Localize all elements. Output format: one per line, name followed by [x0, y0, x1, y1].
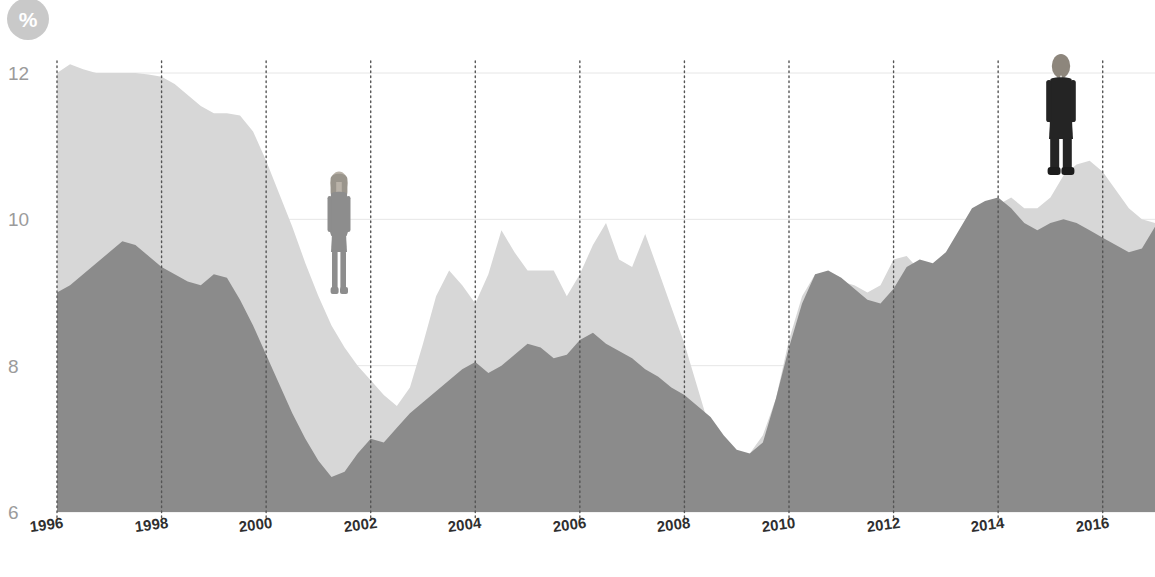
x-axis-tick-label: 2006	[552, 515, 587, 534]
x-axis-tick-label: 1996	[29, 515, 64, 534]
area-series-group	[57, 64, 1155, 512]
man-figure	[1042, 53, 1080, 177]
area-chart-svg	[0, 0, 1155, 577]
y-axis-tick-label: 12	[8, 64, 46, 83]
x-axis-tick-label: 2004	[447, 515, 482, 534]
x-axis-tick-label: 2008	[656, 515, 691, 534]
x-axis-tick-label: 2010	[761, 515, 796, 534]
x-axis-tick-label: 2014	[970, 515, 1005, 534]
plot-area	[0, 0, 1155, 577]
y-axis-tick-label: 10	[8, 210, 46, 229]
x-axis-tick-label: 2012	[866, 515, 901, 534]
x-axis-tick-label: 2002	[343, 515, 378, 534]
x-axis-tick-label: 2016	[1075, 515, 1110, 534]
y-axis-tick-label: 8	[8, 356, 46, 375]
x-axis-tick-label: 2000	[238, 515, 273, 534]
chart-root: % 121086 1996199820002002200420062008201…	[0, 0, 1155, 577]
woman-figure	[322, 170, 356, 295]
x-axis-tick-label: 1998	[134, 515, 169, 534]
